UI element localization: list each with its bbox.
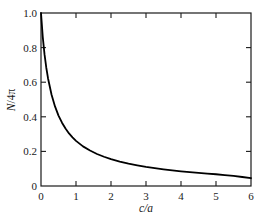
x-tick-label: 3 — [143, 191, 149, 202]
y-axis-label-symbol: N — [5, 104, 17, 112]
y-tick-label: 0.8 — [23, 42, 37, 53]
chart-figure: 00.20.40.60.81.0 0123456 c/a N/4π — [0, 0, 265, 223]
x-tick-label: 2 — [108, 191, 114, 202]
y-axis-label: N/4π — [6, 89, 18, 111]
x-tick-label: 6 — [248, 191, 254, 202]
y-tick-label: 1.0 — [23, 8, 37, 19]
y-tick-label: 0 — [32, 181, 38, 192]
y-tick-label: 0.4 — [23, 111, 37, 122]
y-tick-label: 0.2 — [23, 146, 37, 157]
y-tick-label: 0.6 — [23, 77, 37, 88]
y-axis-label-suffix: /4π — [5, 89, 17, 104]
x-axis-label: c/a — [139, 203, 153, 215]
x-tick-label: 0 — [38, 191, 44, 202]
x-tick-label: 1 — [73, 191, 79, 202]
x-tick-label: 4 — [178, 191, 184, 202]
x-tick-label: 5 — [213, 191, 219, 202]
